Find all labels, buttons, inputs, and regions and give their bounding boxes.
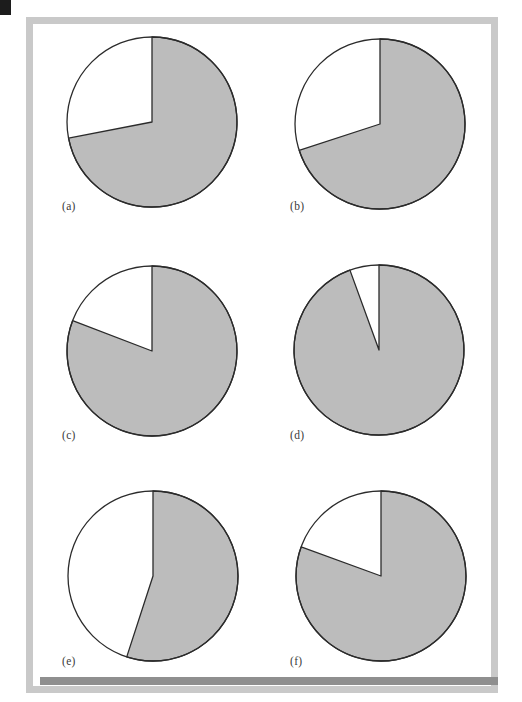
figure-caption-c: (c) [62,429,76,441]
pie-graphic [61,31,243,213]
figure-caption-a: (a) [62,200,76,212]
pie-graphic [62,485,244,667]
pie-graphic [289,33,471,215]
page-frame-border: (a)(b)(c)(d)(e)(f) [26,17,498,693]
figure-caption-d: (d) [290,429,304,441]
pie-graphic [290,485,472,667]
figure-caption-f: (f) [290,655,302,667]
pie-slice-shaded [294,265,464,435]
pie-graphic [288,259,470,441]
bottom-rule-bar [40,677,498,685]
figure-caption-e: (e) [62,655,76,667]
figure-plate: (a)(b)(c)(d)(e)(f) [33,24,491,686]
scanned-page: (a)(b)(c)(d)(e)(f) [0,0,522,702]
corner-register-mark [0,0,11,15]
pie-graphic [61,260,243,442]
figure-caption-b: (b) [290,200,304,212]
